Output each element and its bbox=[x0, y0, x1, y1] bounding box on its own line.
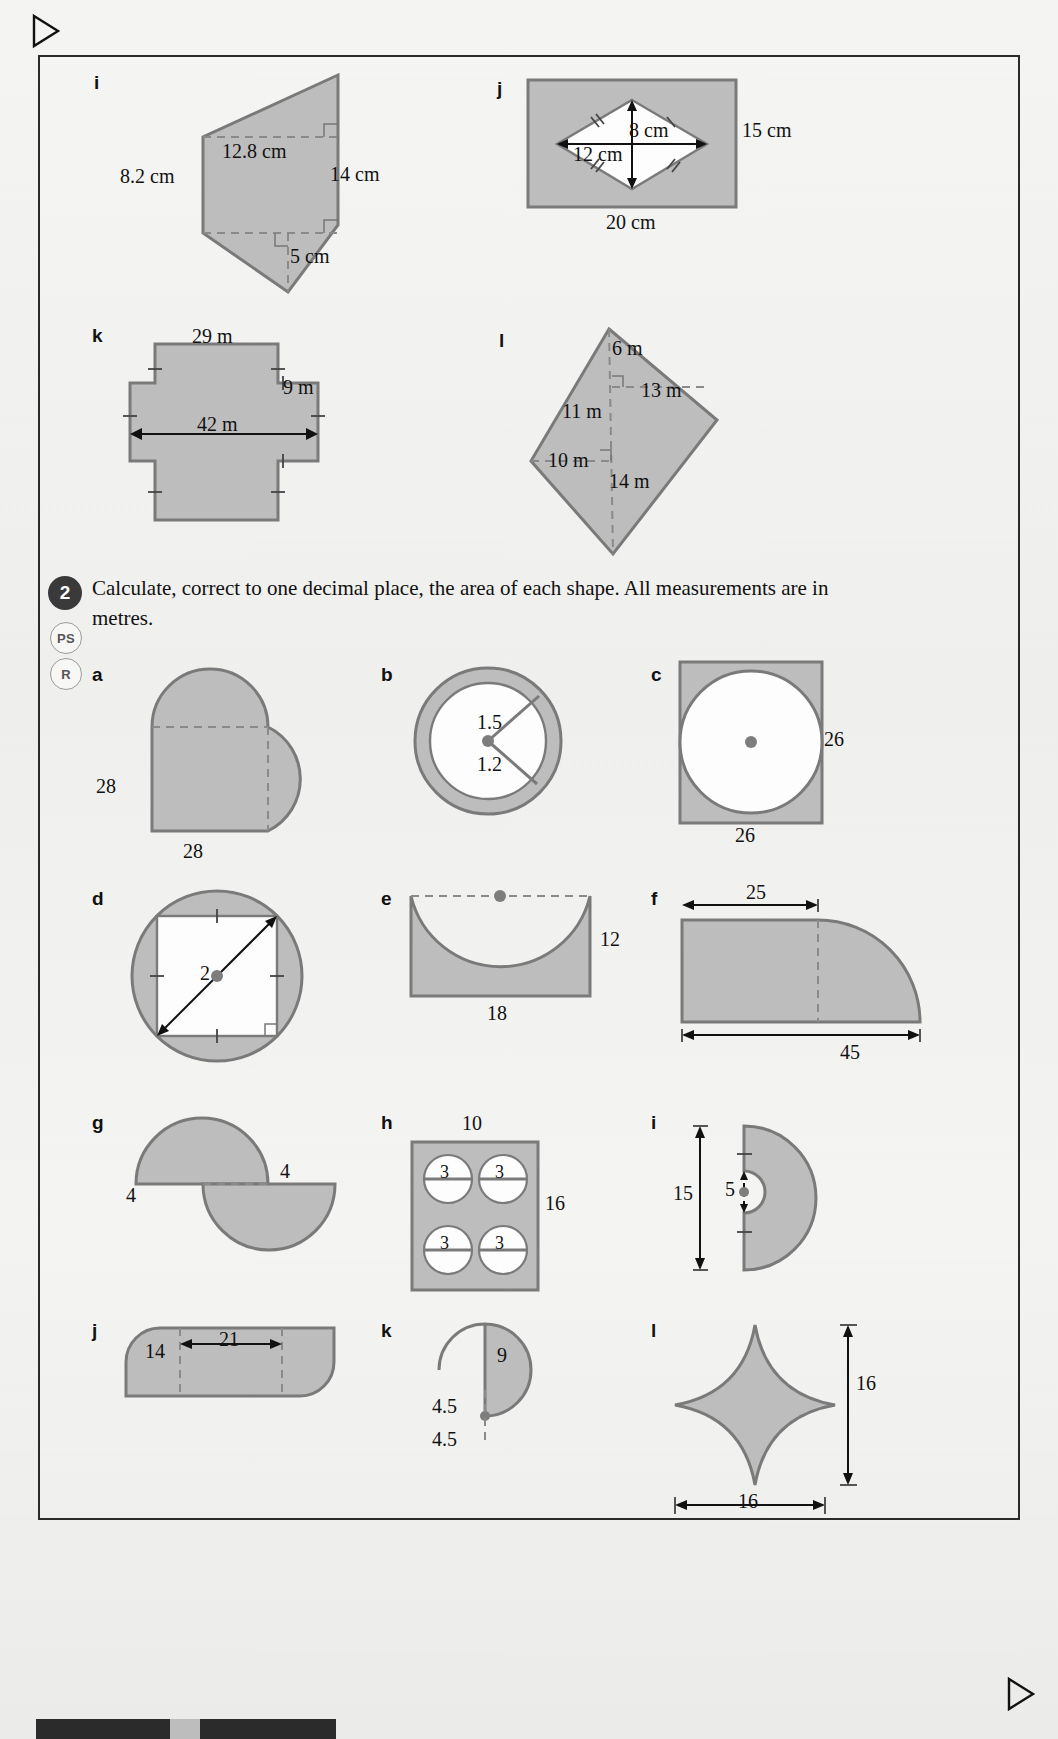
textbook-page: i 12.8 cm 8.2 cm 14 cm 5 cm j 8 cm 12 cm… bbox=[0, 0, 1058, 1739]
footer-bar-accent bbox=[170, 1719, 200, 1739]
dim-2c-26-bottom: 26 bbox=[735, 824, 755, 847]
dim-2j-14: 14 bbox=[145, 1340, 165, 1363]
figure-2l bbox=[670, 1310, 930, 1500]
dim-2g-4-right: 4 bbox=[280, 1160, 290, 1183]
shape-label-2c: c bbox=[651, 664, 662, 686]
dim-2h-3-br: 3 bbox=[495, 1233, 504, 1254]
shape-label-1i: i bbox=[94, 72, 99, 94]
figure-2i bbox=[692, 1120, 872, 1280]
question-2-text: Calculate, correct to one decimal place,… bbox=[92, 573, 892, 633]
badge-ps: PS bbox=[50, 622, 82, 654]
dim-2i-5: 5 bbox=[725, 1178, 735, 1201]
figure-2f bbox=[678, 898, 948, 1048]
dim-2e-18: 18 bbox=[487, 1002, 507, 1025]
shape-label-2h: h bbox=[381, 1112, 393, 1134]
shape-label-1j: j bbox=[497, 78, 502, 100]
dim-1l-11m: 11 m bbox=[562, 400, 602, 423]
dim-2c-26-right: 26 bbox=[824, 728, 844, 751]
dim-1j-12cm: 12 cm bbox=[573, 143, 622, 166]
figure-2j bbox=[122, 1322, 362, 1412]
dim-2f-25: 25 bbox=[746, 881, 766, 904]
dim-1k-9m: 9 m bbox=[283, 376, 314, 399]
dim-1l-6m: 6 m bbox=[612, 337, 643, 360]
figure-1k bbox=[128, 342, 348, 532]
dim-2l-16-vertical: 16 bbox=[856, 1372, 876, 1395]
dim-2l-16-horizontal: 16 bbox=[738, 1490, 758, 1513]
shape-label-2i: i bbox=[651, 1112, 656, 1134]
dim-2e-12: 12 bbox=[600, 928, 620, 951]
dim-2h-3-tr: 3 bbox=[495, 1162, 504, 1183]
dim-2b-1_5: 1.5 bbox=[477, 711, 502, 734]
dim-2j-21: 21 bbox=[219, 1328, 239, 1351]
shape-label-2l: l bbox=[651, 1320, 656, 1342]
shape-label-1l: l bbox=[499, 330, 504, 352]
dim-1i-12_8cm: 12.8 cm bbox=[222, 140, 286, 163]
dim-2b-1_2: 1.2 bbox=[477, 753, 502, 776]
dim-2a-28-left: 28 bbox=[96, 775, 116, 798]
dim-2h-10: 10 bbox=[462, 1112, 482, 1135]
figure-2c bbox=[678, 660, 838, 830]
dim-2k-4_5-bottom: 4.5 bbox=[432, 1428, 457, 1451]
badge-r: R bbox=[50, 658, 82, 690]
dim-2i-15: 15 bbox=[673, 1182, 693, 1205]
dim-2d-2: 2 bbox=[200, 962, 210, 985]
dim-2h-3-bl: 3 bbox=[440, 1233, 449, 1254]
dim-2k-4_5-top: 4.5 bbox=[432, 1395, 457, 1418]
shape-label-2j: j bbox=[92, 1320, 97, 1342]
dim-2f-45: 45 bbox=[840, 1041, 860, 1064]
dim-1j-15cm: 15 cm bbox=[742, 119, 791, 142]
shape-label-2f: f bbox=[651, 888, 657, 910]
dim-2a-28-bottom: 28 bbox=[183, 840, 203, 863]
question-number-2: 2 bbox=[48, 576, 82, 610]
figure-2e bbox=[408, 888, 608, 1018]
dim-1j-20cm: 20 cm bbox=[606, 211, 655, 234]
figure-2b bbox=[413, 666, 573, 826]
figure-2g bbox=[128, 1112, 358, 1262]
figure-2h bbox=[410, 1140, 570, 1300]
dim-1l-10m: 10 m bbox=[548, 449, 589, 472]
dim-2k-9: 9 bbox=[497, 1344, 507, 1367]
figure-2d bbox=[125, 890, 325, 1070]
shape-label-2d: d bbox=[92, 888, 104, 910]
figure-1j bbox=[527, 79, 747, 219]
triangle-left-icon[interactable] bbox=[31, 14, 57, 44]
triangle-right-icon[interactable] bbox=[1006, 1677, 1032, 1707]
dim-1l-14m: 14 m bbox=[609, 470, 650, 493]
dim-1i-5cm: 5 cm bbox=[290, 245, 329, 268]
dim-1k-42m: 42 m bbox=[197, 413, 238, 436]
shape-label-2k: k bbox=[381, 1320, 392, 1342]
dim-2g-4-left: 4 bbox=[126, 1184, 136, 1207]
dim-1l-13m: 13 m bbox=[641, 379, 682, 402]
shape-label-2b: b bbox=[381, 664, 393, 686]
dim-1i-14cm: 14 cm bbox=[330, 163, 379, 186]
dim-2h-16: 16 bbox=[545, 1192, 565, 1215]
shape-label-1k: k bbox=[92, 325, 103, 347]
figure-2a bbox=[140, 660, 340, 850]
shape-label-2g: g bbox=[92, 1112, 104, 1134]
shape-label-2e: e bbox=[381, 888, 392, 910]
dim-1i-8_2cm: 8.2 cm bbox=[120, 165, 174, 188]
shape-label-2a: a bbox=[92, 664, 103, 686]
dim-1k-29m: 29 m bbox=[192, 325, 233, 348]
dim-1j-8cm: 8 cm bbox=[629, 119, 668, 142]
dim-2h-3-tl: 3 bbox=[440, 1162, 449, 1183]
